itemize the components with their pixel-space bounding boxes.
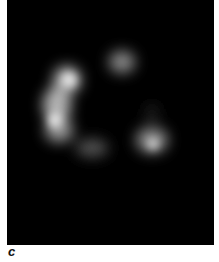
micrograph-panel bbox=[7, 0, 214, 245]
fluorescence-image bbox=[7, 0, 214, 245]
panel-label: c bbox=[8, 244, 15, 259]
